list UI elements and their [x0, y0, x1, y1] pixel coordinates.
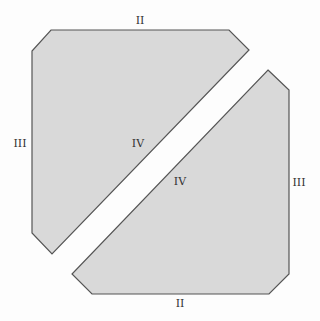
label-left-edge: III — [13, 137, 26, 150]
pieces-svg — [0, 0, 320, 321]
label-lower-diagonal: IV — [174, 175, 186, 188]
label-top-edge: II — [136, 14, 145, 27]
diagram-canvas: II III IV IV III II — [0, 0, 320, 321]
label-upper-diagonal: IV — [132, 137, 144, 150]
label-right-edge: III — [292, 176, 305, 189]
label-bottom-edge: II — [176, 297, 185, 310]
